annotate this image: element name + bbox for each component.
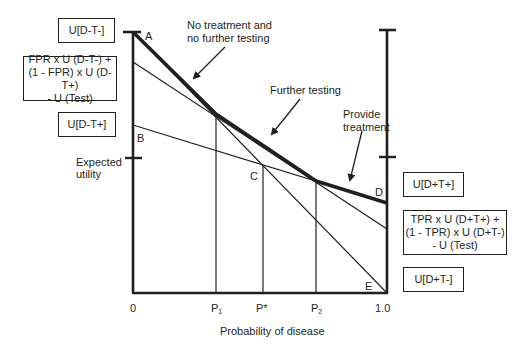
further-testing-annotation: Further testing [270, 84, 341, 96]
x-tick-0: 0 [130, 302, 136, 314]
box-u-d-minus-t-minus: U[D-T-] [58, 18, 115, 43]
box-text-line: (1 - TPR) x U (D+T-) [405, 226, 504, 239]
provide-treatment-annotation-l1: Provide [343, 108, 380, 120]
point-a-label: A [145, 30, 153, 42]
x-tick-1: 1.0 [375, 302, 390, 314]
x-axis-label: Probability of disease [220, 325, 325, 337]
no-treatment-annotation-l1: No treatment and [187, 19, 272, 31]
box-tpr-formula: TPR x U (D+T+) + (1 - TPR) x U (D+T-) - … [403, 210, 507, 255]
x-tick-pstar: P* [256, 302, 268, 314]
box-fpr-formula: FPR x U (D-T-) + (1 - FPR) x U (D-T+) - … [23, 56, 117, 101]
y-axis-label-l1: Expected [76, 156, 122, 168]
arrow-further-testing [272, 99, 300, 134]
point-e-label: E [365, 280, 372, 292]
box-u-d-plus-t-minus: U[D+T-] [403, 267, 464, 292]
point-d-label: D [375, 186, 383, 198]
point-b-label: B [137, 132, 144, 144]
box-text: U[D-T-] [69, 24, 104, 37]
provide-treatment-annotation-l2: treatment [343, 121, 389, 133]
x-tick-p1: P1 [211, 302, 222, 315]
box-text: U[D-T+] [68, 118, 107, 131]
point-c-label: C [250, 170, 258, 182]
y-axis-label-l2: utility [76, 168, 102, 180]
box-text: U[D+T-] [414, 273, 452, 286]
arrow-provide-treatment [350, 131, 362, 180]
arrow-no-treatment [194, 47, 225, 78]
box-u-d-minus-t-plus: U[D-T+] [58, 112, 116, 137]
box-text-line: - U (Test) [405, 239, 504, 252]
no-treatment-annotation-l2: no further testing [187, 32, 270, 44]
box-u-d-plus-t-plus: U[D+T+] [403, 172, 464, 197]
box-text-line: (1 - FPR) x U (D-T+) [24, 66, 116, 92]
x-tick-p2: P2 [311, 302, 322, 315]
box-text-line: TPR x U (D+T+) + [405, 213, 504, 226]
box-text: U[D+T+] [413, 178, 455, 191]
box-text-line: FPR x U (D-T-) + [24, 53, 116, 66]
box-text-line: - U (Test) [24, 92, 116, 105]
